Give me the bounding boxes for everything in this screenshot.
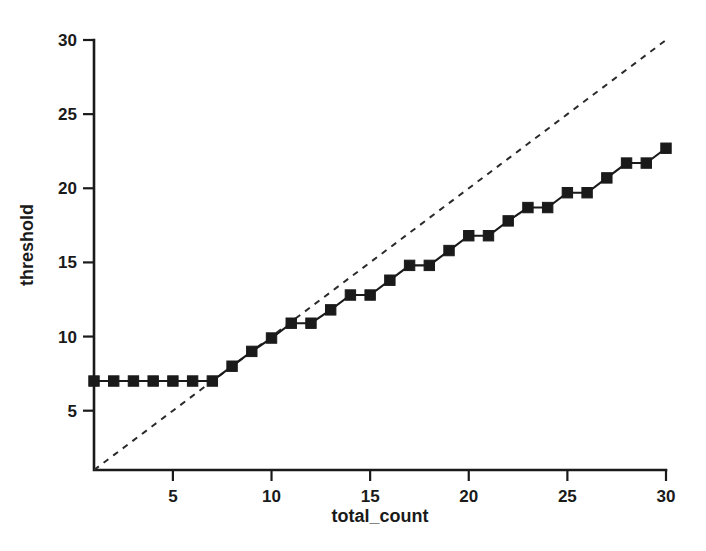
y-tick-label: 15	[58, 253, 77, 272]
y-tick-label: 5	[68, 402, 77, 421]
data-point-marker	[306, 318, 316, 328]
data-point-marker	[621, 158, 631, 168]
threshold-series-line	[94, 148, 666, 381]
x-tick-label: 15	[361, 487, 380, 506]
data-point-marker	[227, 361, 237, 371]
data-point-marker	[325, 305, 335, 315]
threshold-vs-total-count-plot: 51015202530 51015202530 total_count thre…	[0, 0, 706, 551]
chart-figure: 51015202530 51015202530 total_count thre…	[0, 0, 706, 551]
data-point-marker	[424, 260, 434, 270]
x-axis-ticks	[173, 470, 666, 481]
data-point-marker	[247, 346, 257, 356]
identity-reference-line	[94, 40, 666, 470]
y-tick-label: 20	[58, 179, 77, 198]
data-series-group	[89, 40, 671, 470]
data-point-marker	[345, 290, 355, 300]
data-point-marker	[641, 158, 651, 168]
axes: 51015202530 51015202530	[58, 31, 675, 506]
x-tick-label: 5	[168, 487, 177, 506]
data-point-marker	[286, 318, 296, 328]
data-point-marker	[483, 231, 493, 241]
y-axis-tick-labels: 51015202530	[58, 31, 77, 421]
data-point-marker	[464, 231, 474, 241]
x-tick-label: 25	[558, 487, 577, 506]
data-point-marker	[444, 245, 454, 255]
x-tick-label: 30	[657, 487, 676, 506]
data-point-marker	[582, 188, 592, 198]
axis-spines	[94, 40, 666, 470]
y-tick-label: 25	[58, 105, 77, 124]
data-point-marker	[109, 376, 119, 386]
x-tick-label: 20	[459, 487, 478, 506]
data-point-marker	[562, 188, 572, 198]
data-point-marker	[602, 173, 612, 183]
data-point-marker	[523, 202, 533, 212]
data-point-marker	[385, 275, 395, 285]
x-axis-title: total_count	[332, 506, 429, 526]
threshold-series-markers	[89, 143, 671, 386]
x-tick-label: 10	[262, 487, 281, 506]
x-axis-tick-labels: 51015202530	[168, 487, 675, 506]
y-tick-label: 30	[58, 31, 77, 50]
data-point-marker	[148, 376, 158, 386]
data-point-marker	[207, 376, 217, 386]
data-point-marker	[404, 260, 414, 270]
data-point-marker	[266, 333, 276, 343]
y-axis-title: threshold	[17, 204, 37, 286]
data-point-marker	[128, 376, 138, 386]
data-point-marker	[365, 290, 375, 300]
data-point-marker	[187, 376, 197, 386]
data-point-marker	[542, 202, 552, 212]
y-tick-label: 10	[58, 328, 77, 347]
data-point-marker	[89, 376, 99, 386]
data-point-marker	[661, 143, 671, 153]
y-axis-ticks	[83, 40, 94, 411]
data-point-marker	[168, 376, 178, 386]
data-point-marker	[503, 216, 513, 226]
